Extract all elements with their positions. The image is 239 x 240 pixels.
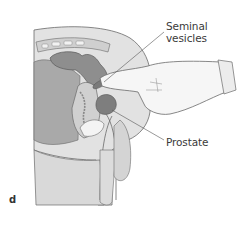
penis (100, 150, 116, 205)
label-seminal-vesicles: Seminal vesicles (166, 20, 208, 44)
pelvic-cavity (34, 60, 80, 145)
panel-letter: d (9, 194, 16, 205)
label-seminal-line1: Seminal (166, 20, 208, 32)
label-seminal-line2: vesicles (166, 32, 208, 44)
label-prostate: Prostate (166, 136, 208, 148)
prostate-shape (96, 95, 116, 115)
